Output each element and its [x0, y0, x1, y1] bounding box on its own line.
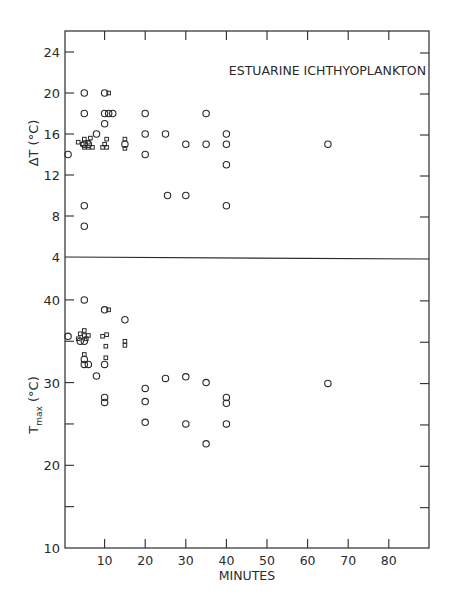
- y-tick-label: 4: [52, 250, 60, 265]
- circle-marker: [81, 223, 87, 229]
- square-marker: [123, 344, 127, 348]
- x-axis-label: MINUTES: [219, 568, 276, 583]
- circle-marker: [110, 110, 116, 116]
- circle-marker: [223, 162, 229, 168]
- square-marker: [101, 334, 105, 338]
- circle-marker: [142, 398, 148, 404]
- square-marker: [123, 137, 127, 141]
- circle-marker: [325, 141, 331, 147]
- circle-marker: [183, 192, 189, 198]
- circle-marker: [81, 297, 87, 303]
- circle-marker: [142, 131, 148, 137]
- tick-labels: 4812162024102030401020304050607080: [43, 45, 396, 568]
- circle-marker: [142, 385, 148, 391]
- x-tick-label: 40: [218, 553, 234, 568]
- ylabel-sub: max: [34, 405, 44, 425]
- y-tick-label: 10: [43, 541, 60, 556]
- square-marker: [83, 137, 87, 141]
- ylabel-t: T: [26, 426, 41, 435]
- square-marker: [76, 140, 80, 144]
- ylabel-unit: (°C): [26, 376, 41, 406]
- y-tick-label: 16: [43, 127, 60, 142]
- circle-marker: [203, 110, 209, 116]
- circle-marker: [81, 110, 87, 116]
- circle-marker: [142, 419, 148, 425]
- y-tick-label: 12: [43, 168, 60, 183]
- circle-marker: [325, 380, 331, 386]
- x-tick-label: 80: [381, 553, 397, 568]
- y-tick-label: 40: [43, 293, 60, 308]
- circle-marker: [81, 90, 87, 96]
- y-tick-label: 30: [43, 376, 60, 391]
- circle-marker: [101, 361, 107, 367]
- y-tick-label: 24: [43, 45, 60, 60]
- circle-marker: [162, 375, 168, 381]
- x-tick-label: 20: [137, 553, 153, 568]
- square-marker: [89, 136, 93, 140]
- circle-marker: [223, 131, 229, 137]
- lower-y-axis-label: Tmax (°C): [26, 376, 44, 434]
- data-points: [65, 90, 331, 447]
- y-tick-label: 20: [43, 86, 60, 101]
- axis-ticks: [65, 31, 429, 548]
- circle-marker: [183, 421, 189, 427]
- circle-marker: [85, 361, 91, 367]
- circle-marker: [183, 141, 189, 147]
- scatter-chart: 4812162024102030401020304050607080 ESTUA…: [0, 0, 452, 603]
- circle-marker: [101, 121, 107, 127]
- chart-title: ESTUARINE ICHTHYOPLANKTON: [229, 63, 426, 78]
- square-marker: [104, 344, 108, 348]
- circle-marker: [183, 374, 189, 380]
- circle-marker: [203, 379, 209, 385]
- circle-marker: [162, 131, 168, 137]
- circle-marker: [81, 203, 87, 209]
- panel-divider: [65, 257, 429, 259]
- y-tick-label: 8: [52, 209, 60, 224]
- circle-marker: [65, 333, 71, 339]
- circle-marker: [142, 151, 148, 157]
- square-marker: [104, 356, 108, 360]
- x-tick-label: 70: [340, 553, 356, 568]
- upper-y-axis-label: ΔT (°C): [26, 120, 41, 167]
- circle-marker: [65, 151, 71, 157]
- square-marker: [105, 137, 109, 141]
- square-marker: [123, 339, 127, 343]
- plot-frame: [65, 31, 429, 548]
- circle-marker: [122, 317, 128, 323]
- x-tick-label: 50: [259, 553, 275, 568]
- x-tick-label: 60: [300, 553, 316, 568]
- square-marker: [78, 332, 82, 336]
- circle-marker: [164, 192, 170, 198]
- circle-marker: [93, 373, 99, 379]
- circle-marker: [223, 141, 229, 147]
- circle-marker: [203, 441, 209, 447]
- circle-marker: [93, 131, 99, 137]
- x-tick-label: 30: [178, 553, 194, 568]
- circle-marker: [142, 110, 148, 116]
- square-marker: [105, 333, 109, 337]
- circle-marker: [223, 203, 229, 209]
- y-tick-label: 20: [43, 458, 60, 473]
- square-marker: [83, 329, 87, 333]
- circle-marker: [223, 421, 229, 427]
- x-tick-label: 10: [97, 553, 113, 568]
- circle-marker: [203, 141, 209, 147]
